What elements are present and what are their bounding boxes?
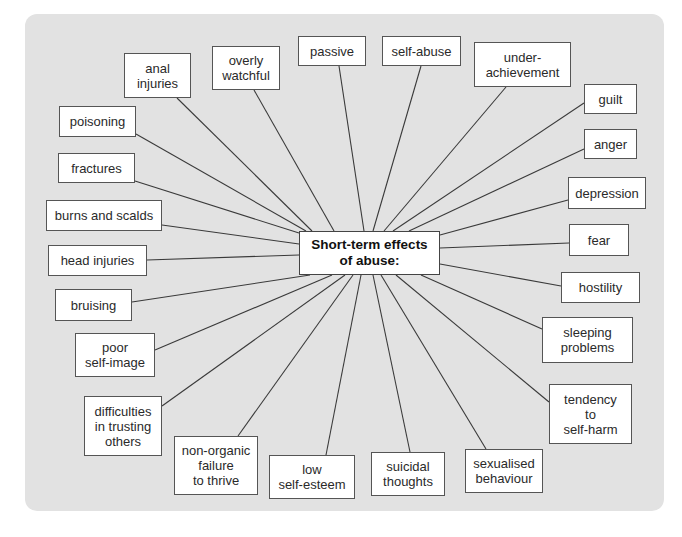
node-label: head injuries (61, 253, 135, 268)
connector-under-achievement (384, 87, 506, 231)
connector-sexualised-behaviour (381, 275, 486, 449)
node-label: sleeping problems (561, 325, 614, 355)
connector-burns-and-scalds (162, 225, 299, 244)
node-fear: fear (569, 224, 629, 256)
node-anger: anger (584, 129, 637, 159)
central-topic-label: Short-term effects of abuse: (311, 237, 427, 269)
node-anal-injuries: anal injuries (124, 53, 191, 98)
node-depression: depression (568, 177, 646, 209)
node-label: fear (588, 233, 610, 248)
node-label: low self-esteem (278, 462, 345, 492)
central-topic-box: Short-term effects of abuse: (299, 231, 440, 275)
node-label: suicidal thoughts (383, 459, 433, 489)
connector-bruising (132, 275, 310, 302)
connector-head-injuries (147, 255, 299, 260)
connector-hostility (440, 264, 561, 286)
node-label: difficulties in trusting others (95, 404, 152, 449)
node-label: overly watchful (222, 53, 270, 83)
node-hostility: hostility (561, 272, 640, 303)
connector-passive (339, 66, 364, 231)
node-self-abuse: self-abuse (382, 36, 461, 66)
node-label: hostility (579, 280, 622, 295)
node-difficulties-in-trusting-others: difficulties in trusting others (84, 396, 162, 456)
connector-depression (440, 200, 568, 235)
node-low-self-esteem: low self-esteem (269, 455, 355, 499)
node-head-injuries: head injuries (48, 245, 147, 276)
node-label: anal injuries (137, 61, 178, 91)
connector-suicidal-thoughts (373, 275, 410, 452)
node-suicidal-thoughts: suicidal thoughts (371, 452, 445, 496)
node-label: poor self-image (85, 340, 145, 370)
connector-overly-watchful (254, 90, 334, 231)
connector-non-organic-failure-to-thrive (238, 275, 353, 436)
connector-anal-injuries (177, 98, 312, 231)
node-label: bruising (71, 298, 117, 313)
node-label: guilt (599, 92, 623, 107)
connector-poor-self-image (155, 275, 332, 350)
node-label: non-organic failure to thrive (182, 443, 251, 488)
node-label: under- achievement (486, 50, 560, 80)
node-label: fractures (71, 161, 122, 176)
connector-low-self-esteem (326, 275, 361, 455)
connector-difficulties-in-trusting-others (162, 275, 345, 406)
node-label: burns and scalds (55, 208, 153, 223)
connector-self-abuse (373, 66, 421, 231)
node-overly-watchful: overly watchful (212, 46, 280, 90)
node-label: poisoning (70, 114, 126, 129)
node-non-organic-failure-to-thrive: non-organic failure to thrive (174, 436, 258, 495)
node-tendency-to-self-harm: tendency to self-harm (549, 384, 632, 444)
node-label: anger (594, 137, 627, 152)
node-label: passive (310, 44, 354, 59)
node-sleeping-problems: sleeping problems (542, 317, 633, 363)
node-label: depression (575, 186, 639, 201)
node-label: tendency to self-harm (563, 392, 617, 437)
node-burns-and-scalds: burns and scalds (46, 200, 162, 231)
connector-guilt (393, 103, 584, 231)
node-poisoning: poisoning (59, 106, 136, 137)
node-passive: passive (298, 36, 366, 66)
node-bruising: bruising (55, 289, 132, 321)
node-label: sexualised behaviour (473, 456, 534, 486)
node-guilt: guilt (584, 84, 637, 114)
node-sexualised-behaviour: sexualised behaviour (465, 449, 543, 493)
connector-fear (440, 243, 569, 248)
node-label: self-abuse (392, 44, 452, 59)
connector-sleeping-problems (421, 275, 542, 329)
node-fractures: fractures (58, 153, 135, 183)
node-poor-self-image: poor self-image (75, 333, 155, 377)
node-under-achievement: under- achievement (474, 42, 571, 87)
